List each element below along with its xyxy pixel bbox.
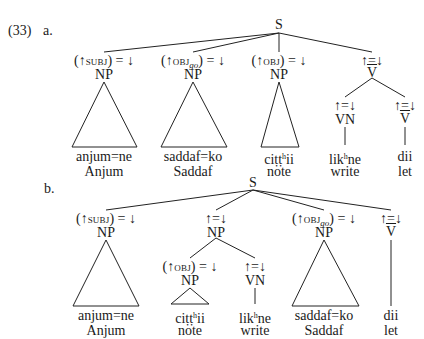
vbar-b: V (386, 225, 396, 239)
terminal-saddaf-a: saddaf=ko (164, 150, 222, 164)
gloss-let-a: let (398, 165, 412, 179)
np-obj-triangle-a (261, 82, 299, 147)
np-obj-a: NP (270, 68, 288, 82)
terminal-saddaf-b: saddaf=ko (295, 309, 353, 323)
gloss-note-b: note (178, 324, 202, 338)
annotation-obj-b: (↑obj) = ↓ (163, 260, 218, 274)
gloss-let-b: let (384, 324, 398, 338)
gloss-saddaf-b: Saddaf (305, 324, 344, 338)
vn-a: VN (335, 113, 355, 127)
tree-b-root-s: S (249, 176, 257, 190)
v-a: V (400, 112, 410, 126)
example-number: (33) (8, 24, 31, 38)
gloss-note-a: note (267, 165, 291, 179)
np-objgo-a: NP (184, 68, 202, 82)
terminal-anjum-b: anjum=ne (78, 309, 134, 323)
np-subj-b: NP (97, 226, 115, 240)
np-objgo-triangle-a (161, 82, 227, 147)
annotation-vn-b: ↑=↓ (244, 260, 266, 274)
tree-a-label: a. (43, 24, 53, 38)
terminal-dii-b: dii (384, 309, 399, 323)
tree-a-root-s: S (275, 18, 283, 32)
np-head-b: NP (207, 226, 225, 240)
annotation-np-head-b: ↑=↓ (205, 212, 227, 226)
gloss-saddaf-a: Saddaf (174, 165, 213, 179)
annotation-obj-a: (↑obj) = ↓ (252, 54, 307, 68)
np-objgo-b: NP (315, 226, 333, 240)
gloss-write-b: write (241, 324, 270, 338)
np-objgo-triangle-b (292, 240, 359, 306)
annotation-subj-a: (↑subj) = ↓ (74, 54, 134, 68)
annotation-vn-a: ↑=↓ (334, 99, 356, 113)
np-subj-triangle-a (72, 82, 137, 147)
np-subj-triangle-b (73, 240, 139, 306)
annotation-subj-b: (↑subj) = ↓ (76, 212, 136, 226)
tree-b-label: b. (44, 182, 55, 196)
terminal-dii-a: dii (398, 150, 413, 164)
np-obj-b: NP (181, 274, 199, 288)
np-subj-a: NP (95, 68, 113, 82)
gloss-anjum-b: Anjum (87, 324, 126, 338)
np-obj-triangle-b (171, 288, 209, 304)
gloss-write-a: write (331, 165, 360, 179)
terminal-anjum-a: anjum=ne (76, 150, 132, 164)
gloss-anjum-a: Anjum (85, 165, 124, 179)
vn-b: VN (245, 274, 265, 288)
vbar-a: V (367, 66, 377, 80)
